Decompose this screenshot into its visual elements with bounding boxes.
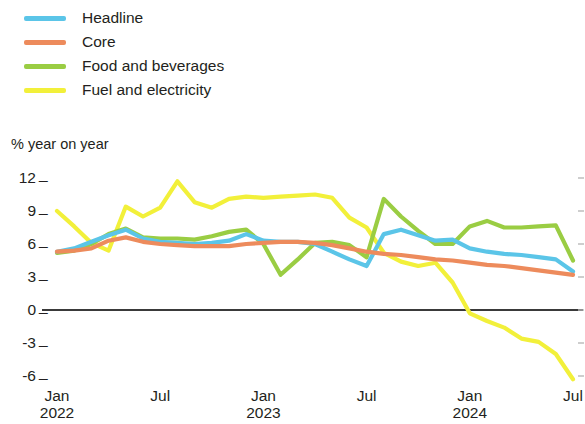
y-axis-tick-label: 12 bbox=[6, 170, 36, 186]
y-axis-tick-mark: _ bbox=[39, 298, 48, 314]
y-axis-tick-mark: _ bbox=[39, 232, 48, 248]
x-axis-tick-month: Jan bbox=[251, 387, 276, 404]
y-axis-tick-mark: _ bbox=[39, 199, 48, 215]
y-axis-tick-label: 6 bbox=[6, 236, 36, 252]
x-axis-tick-month: Jul bbox=[357, 387, 377, 404]
y-axis-tick-label: 3 bbox=[6, 269, 36, 285]
y-axis-tick-mark: _ bbox=[39, 331, 48, 347]
x-axis-tick-label: Jul bbox=[357, 387, 377, 404]
plot-area bbox=[0, 0, 585, 424]
x-axis-tick-year: 2023 bbox=[246, 404, 280, 421]
x-axis-tick-label: Jan2023 bbox=[246, 387, 280, 422]
x-axis-tick-label: Jan2022 bbox=[40, 387, 74, 422]
series-line-core bbox=[57, 237, 573, 274]
x-axis-tick-label: Jul bbox=[150, 387, 170, 404]
x-axis-tick-month: Jul bbox=[563, 387, 583, 404]
x-axis-tick-label: Jan2024 bbox=[453, 387, 487, 422]
y-axis-tick-label: -6 bbox=[6, 368, 36, 384]
series-line-fuel-and-electricity bbox=[57, 181, 573, 379]
y-axis-tick-label: 0 bbox=[6, 302, 36, 318]
x-axis-tick-year: 2024 bbox=[453, 404, 487, 421]
x-axis-tick-label: Jul bbox=[563, 387, 583, 404]
y-axis-tick-mark: _ bbox=[39, 364, 48, 380]
x-axis-tick-month: Jan bbox=[44, 387, 69, 404]
y-axis-tick-mark: _ bbox=[39, 166, 48, 182]
x-axis-tick-month: Jul bbox=[150, 387, 170, 404]
x-axis-tick-year: 2022 bbox=[40, 404, 74, 421]
y-axis-tick-mark: _ bbox=[39, 265, 48, 281]
y-axis-tick-label: 9 bbox=[6, 203, 36, 219]
x-axis-tick-month: Jan bbox=[457, 387, 482, 404]
inflation-line-chart: Headline Core Food and beverages Fuel an… bbox=[0, 0, 585, 424]
y-axis-tick-label: -3 bbox=[6, 335, 36, 351]
